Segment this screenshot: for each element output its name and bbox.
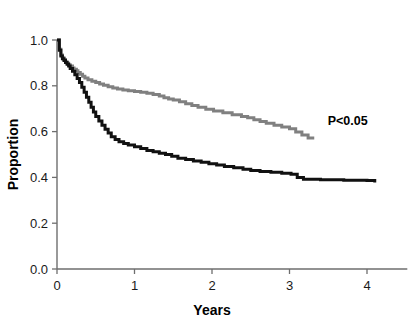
km-survival-chart: 0.00.20.40.60.81.0 01234 P<0.05 YearsPro… — [0, 0, 416, 320]
x-axis-tick-label: 4 — [363, 278, 370, 293]
p-value-annotation: P<0.05 — [328, 114, 368, 128]
annotation-group: P<0.05 — [328, 114, 368, 128]
y-axis-tick-label: 1.0 — [30, 33, 48, 48]
x-axis-tick-label: 0 — [53, 278, 60, 293]
y-axis-tick-label: 0.8 — [30, 78, 48, 93]
y-axis-tick-label: 0.4 — [30, 170, 48, 185]
y-axis-tick-label: 0.0 — [30, 262, 48, 277]
x-axis-tick-label: 2 — [208, 278, 215, 293]
y-axis-tick-label: 0.2 — [30, 216, 48, 231]
x-axis-tick-label: 3 — [286, 278, 293, 293]
y-axis-tick-label: 0.6 — [30, 124, 48, 139]
plot-background — [0, 0, 416, 320]
y-axis-title: Proportion — [5, 119, 21, 191]
chart-canvas: 0.00.20.40.60.81.0 01234 P<0.05 YearsPro… — [0, 0, 416, 320]
x-axis-tick-label: 1 — [131, 278, 138, 293]
x-axis-title: Years — [193, 302, 231, 318]
